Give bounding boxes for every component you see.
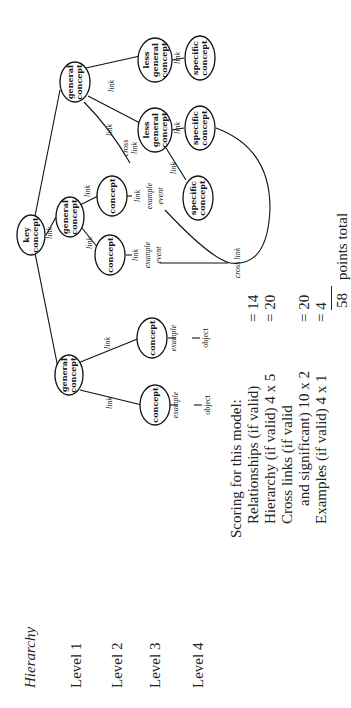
scoring-row-label: Cross links (if valid	[279, 405, 296, 538]
cross-link-label-1: cross	[121, 140, 130, 157]
example-label: example	[169, 324, 178, 351]
link-label: link	[45, 227, 54, 239]
object-label: object	[203, 394, 212, 414]
node-concept-d: concept	[150, 387, 160, 423]
link-example-event-6: event	[154, 246, 163, 264]
scoring-row-label: and significant) 10 x 2	[296, 371, 313, 538]
scoring-row-value: = 20	[262, 295, 279, 322]
link-label: link	[107, 80, 116, 92]
link-label: link	[83, 185, 92, 197]
node-general-mid-2: concept	[69, 199, 79, 235]
scoring-summary: Scoring for this model: Relationships (i…	[228, 18, 348, 538]
node-specific-b-2: concept	[199, 110, 209, 146]
object-label: object	[201, 327, 210, 347]
link-example-event-5: example	[143, 241, 152, 268]
link-example-event-1: link	[133, 190, 142, 202]
link-label: link	[105, 397, 114, 409]
scoring-row-value: = 20	[296, 295, 313, 322]
link-label: link	[173, 122, 182, 134]
node-key-concept-2: concept	[30, 217, 40, 253]
node-general-right-2: concept	[74, 64, 84, 100]
link-example-event-3: event	[156, 187, 165, 205]
scoring-row-label: Examples (if valid) 4 x 1	[313, 374, 330, 538]
total-value: 58	[334, 293, 351, 308]
scoring-heading: Scoring for this model:	[228, 399, 245, 538]
link-label: link	[103, 337, 112, 349]
node-general-left-2: concept	[68, 357, 78, 393]
link-label: link	[105, 124, 114, 136]
example-label: example	[171, 391, 180, 418]
total-label: points total	[334, 213, 351, 280]
node-less-general-b-3: concept	[159, 112, 169, 148]
link-label: link	[173, 52, 182, 64]
node-specific-c-2: concept	[197, 180, 207, 216]
node-concept-a: concept	[107, 178, 117, 214]
node-concept-c: concept	[147, 320, 157, 356]
total-divider	[331, 286, 332, 310]
link-label: link	[169, 162, 178, 174]
node-less-general-a-3: concept	[159, 42, 169, 78]
link-label: link	[85, 237, 94, 249]
scoring-row-value: = 4	[313, 302, 330, 322]
link-example-event-4: link	[131, 249, 140, 261]
scoring-row-value: = 14	[245, 295, 262, 322]
scoring-row-label: Hierarchy (if valid) 4 x 5	[262, 374, 279, 538]
node-concept-b: concept	[105, 237, 115, 273]
cross-link-label-2: link	[130, 142, 139, 154]
link-example-event-2: example	[145, 182, 154, 209]
scoring-row-label: Relationships (if valid)	[245, 386, 262, 538]
node-specific-a-2: concept	[199, 40, 209, 76]
